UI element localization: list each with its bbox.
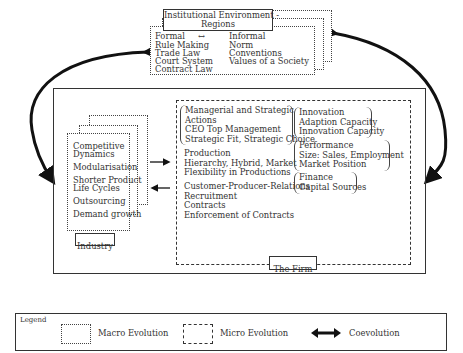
firm-label-box: The Firm: [269, 256, 317, 270]
managerial-group: Managerial and Strategic Actions CEO Top…: [180, 105, 293, 145]
firm-label: The Firm: [273, 264, 312, 274]
micro-evolution-swatch: [183, 324, 213, 344]
innovation-item: Innovation Capacity: [299, 127, 367, 137]
production-group: Production Hierarchy, Hybrid, Market Fle…: [180, 148, 301, 179]
institutional-title-line2: Regions: [164, 20, 272, 29]
industry-label: Industry: [77, 241, 113, 251]
industry-label-box: Industry: [75, 233, 115, 246]
performance-item: Market Position: [299, 160, 385, 170]
coevolution-swatch-icon: [311, 323, 351, 343]
institutional-title-box: Institutional Environment - Regions: [163, 9, 273, 31]
industry-item: Dynamics: [73, 150, 114, 160]
legend-title: Legend: [20, 316, 46, 326]
managerial-item: Strategic Fit, Strategic Choice: [185, 135, 288, 145]
finance-item: Capital Sources: [299, 183, 352, 193]
industry-box: Competitive Dynamics Modularisation Shor…: [67, 133, 130, 231]
macro-evolution-swatch: [61, 324, 91, 344]
formal-item: Contract Law: [155, 65, 213, 75]
industry-item: Life Cycles: [73, 184, 120, 194]
macro-evolution-label: Macro Evolution: [98, 329, 168, 339]
legend-box: Legend Macro Evolution Micro Evolution C…: [15, 313, 447, 351]
industry-item: Demand growth: [73, 210, 141, 220]
micro-evolution-label: Micro Evolution: [220, 329, 288, 339]
coevolution-label: Coevolution: [349, 329, 400, 339]
institutional-box: Formal ↔ Informal Rule Making Trade Law …: [150, 26, 315, 75]
informal-item: Values of a Society: [229, 57, 309, 67]
production-item: Flexibility in Productions: [184, 168, 297, 178]
innovation-group: Innovation Adaption Capacity Innovation …: [294, 107, 372, 138]
industry-item: Outsourcing: [73, 197, 126, 207]
industry-item: Modularisation: [73, 163, 138, 173]
finance-group: Finance Capital Sources: [294, 172, 357, 194]
performance-group: Performance Size: Sales, Employment Mark…: [294, 140, 390, 171]
relations-item: Enforcement of Contracts: [184, 211, 310, 221]
